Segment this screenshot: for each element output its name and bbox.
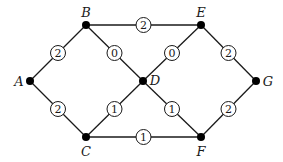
node-label: E bbox=[195, 5, 206, 20]
node-C: C bbox=[81, 133, 91, 159]
weight-label: 0 bbox=[111, 47, 118, 60]
node-D: D bbox=[139, 73, 161, 88]
node-A: A bbox=[13, 74, 34, 89]
edge-weight-C-D: 1 bbox=[107, 102, 122, 117]
node-label: D bbox=[149, 73, 161, 88]
node-dot bbox=[82, 133, 90, 141]
edge-weight-A-C: 2 bbox=[51, 102, 66, 117]
edge-weight-F-G: 2 bbox=[221, 102, 236, 117]
node-dot bbox=[252, 77, 260, 85]
edge-weight-E-D: 0 bbox=[165, 46, 180, 61]
node-dot bbox=[82, 21, 90, 29]
node-label: G bbox=[263, 74, 273, 89]
node-label: F bbox=[195, 144, 206, 159]
node-label: B bbox=[80, 5, 91, 20]
node-G: G bbox=[252, 74, 273, 89]
weight-label: 2 bbox=[225, 103, 232, 116]
edge-weight-B-E: 2 bbox=[136, 18, 151, 33]
edge-weight-A-B: 2 bbox=[51, 46, 66, 61]
node-B: B bbox=[80, 5, 91, 30]
node-dot bbox=[197, 133, 205, 141]
weight-label: 1 bbox=[111, 103, 118, 116]
node-label: C bbox=[81, 144, 91, 159]
weight-label: 1 bbox=[140, 131, 147, 144]
edge-weight-B-D: 0 bbox=[107, 46, 122, 61]
node-dot bbox=[197, 21, 205, 29]
weighted-graph-diagram: 2220011122 ABCDEFG bbox=[0, 0, 283, 162]
edge-weight-C-F: 1 bbox=[136, 130, 151, 145]
edge-weight-D-F: 1 bbox=[165, 102, 180, 117]
weight-label: 0 bbox=[169, 47, 176, 60]
node-F: F bbox=[195, 133, 206, 159]
node-label: A bbox=[13, 74, 23, 89]
edge-weight-E-G: 2 bbox=[221, 46, 236, 61]
weight-label: 2 bbox=[55, 47, 62, 60]
weight-label: 2 bbox=[140, 19, 147, 32]
node-dot bbox=[26, 77, 34, 85]
weight-label: 2 bbox=[225, 47, 232, 60]
node-dot bbox=[139, 77, 147, 85]
weight-label: 1 bbox=[169, 103, 176, 116]
weight-label: 2 bbox=[55, 103, 62, 116]
